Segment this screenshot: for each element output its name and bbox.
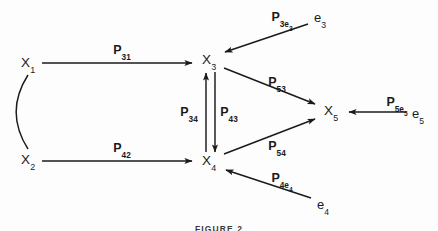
- node-x1: X1: [21, 56, 35, 70]
- node-x3: X3: [202, 53, 216, 67]
- error-term-e3: e3: [314, 11, 326, 24]
- error-term-e4: e4: [317, 198, 329, 211]
- arrow-e4-to-x4: [226, 170, 311, 198]
- path-label-p5e5: P5e5: [386, 96, 407, 110]
- node-x2: X2: [21, 153, 35, 167]
- path-label-p53: P53: [268, 76, 286, 89]
- path-label-p54: P54: [268, 140, 286, 153]
- path-label-p3e3: P3e3: [271, 11, 292, 25]
- path-label-p42: P42: [113, 142, 131, 155]
- path-diagram-figure: X1 X2 X3 X4 X5 e3 e5 e4 P31 P42 P34 P43 …: [0, 0, 438, 231]
- path-label-p34: P34: [180, 106, 198, 119]
- path-label-p4e4: P4e4: [271, 172, 292, 186]
- path-label-p31: P31: [113, 44, 131, 57]
- arrow-e3-to-x3: [225, 24, 308, 52]
- path-diagram-canvas: [0, 0, 438, 231]
- node-x4: X4: [202, 154, 216, 168]
- error-term-e5: e5: [412, 107, 424, 120]
- path-label-p43: P43: [220, 106, 238, 119]
- curve-x1-x2-correlation: [16, 75, 28, 149]
- figure-caption: FIGURE 2: [0, 224, 438, 231]
- node-x5: X5: [324, 104, 338, 118]
